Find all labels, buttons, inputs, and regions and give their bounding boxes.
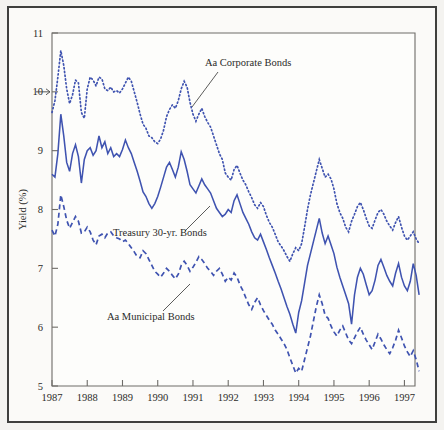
y-axis-title: Yield (%) xyxy=(17,188,29,230)
y-tick-label: 9 xyxy=(38,145,43,156)
y-tick-label: 5 xyxy=(38,381,43,392)
y-tick-label: 8 xyxy=(38,204,43,215)
x-tick-label: 1989 xyxy=(112,392,133,403)
plot-background xyxy=(52,33,415,386)
annotation-label-treasury: Treasury 30-yr. Bonds xyxy=(113,227,207,238)
annotation-label-municipal: Aa Municipal Bonds xyxy=(107,311,195,322)
x-tick-label: 1997 xyxy=(394,392,415,403)
x-tick-label: 1993 xyxy=(253,392,274,403)
figure-container: 5678910111987198819891990199119921993199… xyxy=(0,0,444,430)
x-tick-label: 1991 xyxy=(182,392,203,403)
x-tick-label: 1995 xyxy=(323,392,344,403)
x-tick-label: 1996 xyxy=(359,392,380,403)
y-tick-label: 7 xyxy=(38,263,43,274)
axis-group: 5678910111987198819891990199119921993199… xyxy=(17,28,415,403)
x-tick-label: 1992 xyxy=(218,392,239,403)
x-tick-label: 1990 xyxy=(147,392,168,403)
x-tick-label: 1988 xyxy=(77,392,98,403)
yield-chart: 5678910111987198819891990199119921993199… xyxy=(0,0,444,430)
y-tick-label: 6 xyxy=(38,322,43,333)
x-tick-label: 1994 xyxy=(288,392,310,403)
y-tick-label: 11 xyxy=(33,28,43,39)
annotation-label-corporate: Aa Corporate Bonds xyxy=(205,57,291,68)
x-tick-label: 1987 xyxy=(42,392,63,403)
